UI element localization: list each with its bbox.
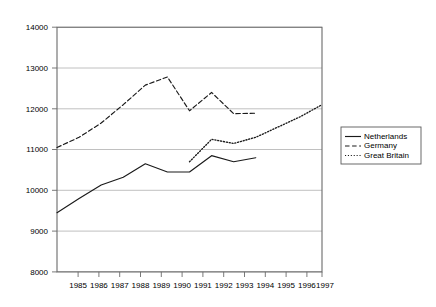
ytick-label-8000: 8000 <box>30 268 48 277</box>
ytick-label-9000: 9000 <box>30 227 48 236</box>
xtick-label-1996: 1996 <box>298 281 316 290</box>
y-axis-ticks <box>52 27 57 272</box>
xtick-label-1992: 1992 <box>215 281 233 290</box>
xtick-label-1988: 1988 <box>132 281 150 290</box>
xtick-label-1994: 1994 <box>256 281 274 290</box>
xtick-label-1986: 1986 <box>90 281 108 290</box>
chart-canvas: 8000 9000 10000 11000 12000 13000 14000 … <box>0 0 436 307</box>
xtick-label-1993: 1993 <box>236 281 254 290</box>
legend-label-germany: Germany <box>364 141 397 150</box>
xtick-label-1987: 1987 <box>111 281 129 290</box>
y-axis-labels: 8000 9000 10000 11000 12000 13000 14000 <box>26 23 49 277</box>
legend: Netherlands Germany Great Britain <box>341 127 421 164</box>
xtick-label-1990: 1990 <box>173 281 191 290</box>
legend-label-netherlands: Netherlands <box>364 132 407 141</box>
line-chart: 8000 9000 10000 11000 12000 13000 14000 … <box>0 0 436 307</box>
ytick-label-14000: 14000 <box>26 23 49 32</box>
xtick-label-1995: 1995 <box>277 281 295 290</box>
x-axis-ticks <box>78 272 322 277</box>
series-layer <box>57 77 322 213</box>
legend-label-great-britain: Great Britain <box>364 151 409 160</box>
gridlines <box>57 27 322 231</box>
ytick-label-11000: 11000 <box>26 145 48 154</box>
series-line-netherlands <box>57 156 256 213</box>
xtick-label-1989: 1989 <box>152 281 170 290</box>
x-axis-labels: 1985 1986 1987 1988 1989 1990 1991 1992 … <box>69 281 334 290</box>
series-line-great-britain <box>190 105 323 162</box>
xtick-label-1985: 1985 <box>69 281 87 290</box>
ytick-label-12000: 12000 <box>26 105 49 114</box>
ytick-label-13000: 13000 <box>26 64 49 73</box>
xtick-label-1997: 1997 <box>316 281 334 290</box>
series-line-germany <box>57 77 256 148</box>
ytick-label-10000: 10000 <box>26 186 49 195</box>
xtick-label-1991: 1991 <box>194 281 212 290</box>
